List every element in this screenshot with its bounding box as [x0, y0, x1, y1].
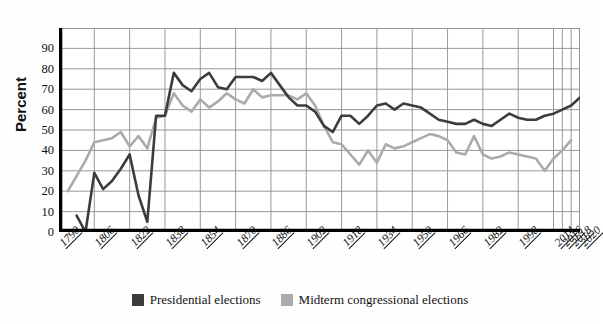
y-tick-label: 10 [24, 206, 54, 219]
chart-legend: Presidential electionsMidterm congressio… [0, 293, 600, 306]
page-bleed-text [0, 0, 600, 10]
y-tick-label: 20 [24, 185, 54, 198]
legend-swatch-icon [281, 294, 293, 306]
y-tick-label: 30 [24, 165, 54, 178]
y-tick-label: 80 [24, 63, 54, 76]
legend-swatch-icon [132, 294, 144, 306]
legend-item-presidential[interactable]: Presidential elections [132, 293, 261, 306]
x-axis-ticks: 1790180618221838185418701886190219181934… [59, 236, 580, 286]
y-tick-label: 90 [24, 42, 54, 55]
y-tick-label: 70 [24, 83, 54, 96]
legend-label: Presidential elections [150, 293, 261, 306]
legend-label: Midterm congressional elections [299, 293, 469, 306]
y-tick-label: 40 [24, 144, 54, 157]
y-tick-label: 0 [24, 226, 54, 239]
y-tick-label: 60 [24, 104, 54, 117]
y-tick-label: 50 [24, 124, 54, 137]
legend-item-midterm[interactable]: Midterm congressional elections [281, 293, 469, 306]
y-axis-ticks: 9080706050403020100 [20, 28, 54, 232]
plot-area [59, 28, 580, 232]
chart-plot-svg [59, 28, 580, 232]
